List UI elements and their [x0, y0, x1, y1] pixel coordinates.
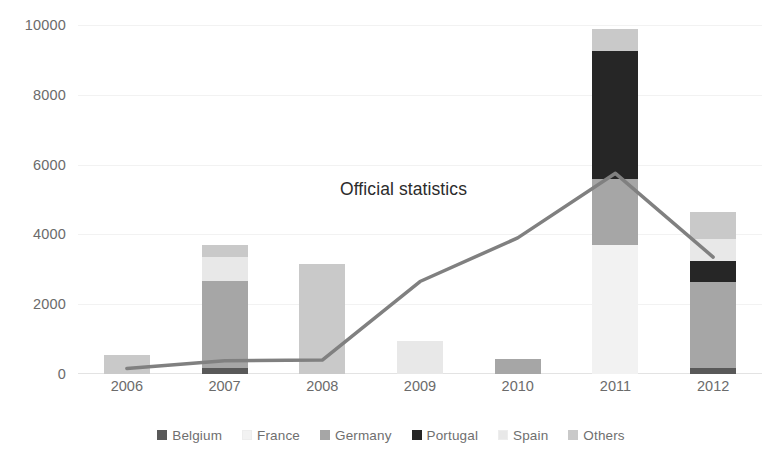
bar-stack — [397, 341, 443, 374]
legend-swatch-icon — [498, 430, 508, 440]
legend-label: Belgium — [172, 428, 222, 443]
legend-item-france[interactable]: France — [242, 428, 300, 443]
y-tick-label: 0 — [58, 366, 66, 382]
bar-segment-germany[interactable] — [202, 281, 248, 368]
x-tick-label: 2012 — [697, 378, 729, 394]
x-tick-label: 2008 — [306, 378, 338, 394]
legend-item-germany[interactable]: Germany — [320, 428, 392, 443]
legend-label: Others — [583, 428, 624, 443]
bar-segment-others[interactable] — [592, 29, 638, 51]
legend-label: Germany — [335, 428, 392, 443]
bar-segment-belgium[interactable] — [690, 368, 736, 374]
legend-swatch-icon — [412, 430, 422, 440]
bar-segment-france[interactable] — [592, 245, 638, 374]
bar-segment-germany[interactable] — [592, 179, 638, 245]
legend-swatch-icon — [242, 430, 252, 440]
legend-item-others[interactable]: Others — [568, 428, 624, 443]
legend-label: France — [257, 428, 300, 443]
legend-swatch-icon — [320, 430, 330, 440]
gridline — [78, 25, 762, 26]
legend-item-belgium[interactable]: Belgium — [157, 428, 222, 443]
bar-segment-portugal[interactable] — [690, 261, 736, 283]
bar-segment-germany[interactable] — [495, 359, 541, 374]
annotation-official-statistics: Official statistics — [340, 179, 467, 200]
gridline — [78, 234, 762, 235]
bar-segment-germany[interactable] — [690, 282, 736, 368]
legend-swatch-icon — [157, 430, 167, 440]
x-tick-label: 2006 — [111, 378, 143, 394]
x-tick-label: 2009 — [404, 378, 436, 394]
bar-segment-belgium[interactable] — [202, 368, 248, 374]
bar-segment-others[interactable] — [104, 355, 150, 374]
bar-stack — [495, 359, 541, 374]
bar-segment-others[interactable] — [202, 245, 248, 257]
bar-stack — [592, 29, 638, 374]
y-tick-label: 4000 — [33, 226, 66, 242]
bar-stack — [104, 355, 150, 374]
x-tick-label: 2007 — [208, 378, 240, 394]
bar-segment-spain[interactable] — [690, 239, 736, 261]
gridline — [78, 304, 762, 305]
legend-label: Portugal — [427, 428, 478, 443]
x-axis: 2006200720082009201020112012 — [78, 378, 762, 402]
legend-label: Spain — [513, 428, 548, 443]
gridline — [78, 165, 762, 166]
bar-segment-spain[interactable] — [202, 257, 248, 281]
y-tick-label: 8000 — [33, 87, 66, 103]
bar-segment-others[interactable] — [690, 212, 736, 239]
y-axis: 0200040006000800010000 — [0, 0, 78, 449]
x-tick-label: 2011 — [600, 378, 631, 394]
bar-segment-portugal[interactable] — [592, 51, 638, 178]
bar-stack — [202, 245, 248, 374]
bar-stack — [690, 212, 736, 374]
y-tick-label: 10000 — [25, 17, 66, 33]
legend-swatch-icon — [568, 430, 578, 440]
x-tick-label: 2010 — [502, 378, 534, 394]
gridline — [78, 95, 762, 96]
chart-legend: BelgiumFranceGermanyPortugalSpainOthers — [0, 424, 782, 446]
legend-item-portugal[interactable]: Portugal — [412, 428, 478, 443]
bar-stack — [299, 264, 345, 374]
bar-segment-others[interactable] — [299, 264, 345, 374]
y-tick-label: 2000 — [33, 296, 66, 312]
legend-item-spain[interactable]: Spain — [498, 428, 548, 443]
y-tick-label: 6000 — [33, 157, 66, 173]
bar-segment-spain[interactable] — [397, 341, 443, 374]
stacked-bar-chart: 0200040006000800010000 20062007200820092… — [0, 0, 782, 449]
